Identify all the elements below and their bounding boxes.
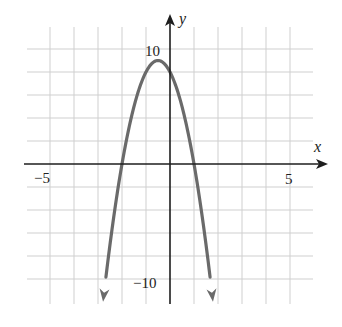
x-axis-label: x (313, 138, 321, 155)
parabola-graph: x y −5 5 10 −10 (0, 0, 342, 327)
y-axis-label: y (177, 10, 187, 28)
curve-arrow-left-icon (100, 288, 110, 301)
x-tick-label-neg5: −5 (34, 170, 50, 186)
y-tick-label-10: 10 (145, 43, 160, 59)
curve-arrow-right-icon (207, 288, 217, 301)
y-tick-label-neg10: −10 (133, 275, 156, 291)
x-tick-label-5: 5 (285, 171, 293, 187)
